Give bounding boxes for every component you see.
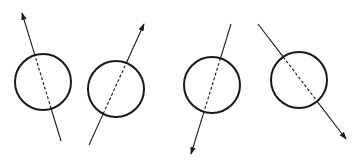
figure-2 [88,24,144,145]
line-hidden-dashed-segment [283,57,317,101]
line-outer-segment [51,109,61,141]
arrow-line-segment [191,112,204,154]
line-hidden-dashed-segment [103,63,126,114]
line-hidden-dashed-segment [204,58,220,112]
figure-3 [184,24,240,154]
circles-with-arrows-diagram [0,0,353,162]
figures-group [15,13,346,154]
arrow-line-segment [22,13,35,55]
line-outer-segment [220,24,231,58]
line-outer-segment [89,114,103,145]
figure-1 [15,13,71,141]
circle-outline [271,52,327,108]
arrow-line-segment [317,101,346,139]
diagram-canvas [0,0,353,162]
circle-outline [88,61,144,117]
line-outer-segment [258,24,283,57]
figure-4 [258,24,346,139]
line-hidden-dashed-segment [35,55,51,109]
arrow-line-segment [126,24,144,63]
